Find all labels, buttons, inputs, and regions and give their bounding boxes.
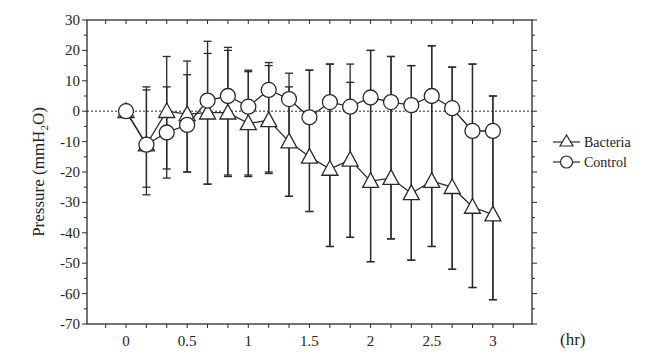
y-tick-label: -30 bbox=[60, 194, 80, 210]
y-tick-label: -10 bbox=[60, 134, 80, 150]
circle-marker-icon bbox=[404, 98, 419, 113]
circle-marker-icon bbox=[200, 93, 215, 108]
x-tick-label: 0 bbox=[122, 333, 130, 349]
legend-item-control: Control bbox=[553, 155, 627, 170]
circle-marker-icon bbox=[261, 82, 276, 97]
circle-marker-icon bbox=[139, 137, 154, 152]
triangle-marker-icon bbox=[322, 161, 338, 176]
legend: Bacteria Control bbox=[553, 135, 631, 170]
x-tick-label: 1.5 bbox=[300, 333, 319, 349]
y-axis: 3020100-10-20-30-40-50-60-70 bbox=[60, 12, 537, 332]
y-tick-label: -20 bbox=[60, 164, 80, 180]
y-tick-label: 10 bbox=[65, 73, 80, 89]
circle-icon bbox=[561, 156, 573, 168]
y-tick-label: 30 bbox=[65, 12, 80, 28]
circle-marker-icon bbox=[363, 90, 378, 105]
y-tick-label: 20 bbox=[65, 42, 80, 58]
triangle-marker-icon bbox=[424, 173, 440, 188]
y-axis-title-main: Pressure (mmH bbox=[29, 131, 48, 237]
triangle-marker-icon bbox=[261, 112, 277, 127]
x-axis-title: (hr) bbox=[560, 330, 585, 349]
y-tick-label: -60 bbox=[60, 286, 80, 302]
circle-marker-icon bbox=[119, 104, 134, 119]
y-tick-label: -70 bbox=[60, 316, 80, 332]
y-tick-label: -50 bbox=[60, 255, 80, 271]
triangle-marker-icon bbox=[159, 103, 175, 118]
circle-marker-icon bbox=[322, 95, 337, 110]
triangle-icon bbox=[560, 135, 573, 146]
y-axis-title-tail: O) bbox=[29, 107, 48, 125]
svg-text:Pressure (mmH2O): Pressure (mmH2O) bbox=[29, 107, 50, 237]
circle-marker-icon bbox=[424, 89, 439, 104]
circle-marker-icon bbox=[282, 92, 297, 107]
triangle-marker-icon bbox=[220, 104, 236, 119]
x-tick-label: 3 bbox=[489, 333, 497, 349]
circle-marker-icon bbox=[180, 117, 195, 132]
triangle-marker-icon bbox=[383, 170, 399, 185]
triangle-marker-icon bbox=[403, 185, 419, 200]
triangle-marker-icon bbox=[301, 148, 317, 163]
circle-marker-icon bbox=[384, 95, 399, 110]
circle-marker-icon bbox=[241, 99, 256, 114]
x-tick-label: 2 bbox=[367, 333, 375, 349]
legend-item-bacteria: Bacteria bbox=[553, 135, 631, 150]
y-axis-title: Pressure (mmH2O) bbox=[29, 107, 50, 237]
y-tick-label: -40 bbox=[60, 225, 80, 241]
legend-label-control: Control bbox=[584, 155, 627, 170]
x-tick-label: 0.5 bbox=[178, 333, 197, 349]
circle-marker-icon bbox=[465, 123, 480, 138]
circle-marker-icon bbox=[343, 99, 358, 114]
pressure-chart: 00.511.522.53 3020100-10-20-30-40-50-60-… bbox=[0, 0, 649, 363]
legend-label-bacteria: Bacteria bbox=[584, 135, 631, 150]
error-bars bbox=[142, 41, 496, 299]
circle-marker-icon bbox=[220, 89, 235, 104]
circle-marker-icon bbox=[485, 123, 500, 138]
y-tick-label: 0 bbox=[73, 103, 81, 119]
circle-marker-icon bbox=[302, 110, 317, 125]
x-tick-label: 2.5 bbox=[422, 333, 441, 349]
x-tick-label: 1 bbox=[245, 333, 253, 349]
circle-marker-icon bbox=[159, 125, 174, 140]
triangle-marker-icon bbox=[485, 206, 501, 221]
triangle-marker-icon bbox=[342, 151, 358, 166]
circle-marker-icon bbox=[445, 101, 460, 116]
